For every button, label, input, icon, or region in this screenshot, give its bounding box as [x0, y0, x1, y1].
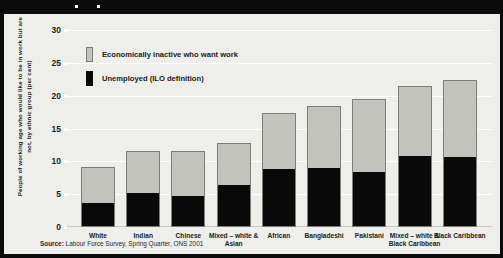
stacked-bar[interactable] [307, 106, 341, 227]
y-axis-tick-label: 30 [52, 25, 61, 35]
source-text: Labour Force Survey, Spring Quarter, ONS… [64, 240, 203, 247]
stacked-bar[interactable] [81, 167, 115, 227]
chart-plate: People of working age who would like to … [4, 14, 500, 254]
y-axis-tick-label: 10 [52, 156, 61, 166]
y-axis-tick-label: 20 [52, 91, 61, 101]
banner-dot-icon [97, 5, 100, 8]
legend-swatch-black-icon [86, 71, 93, 86]
bar-segment-unemployed [308, 168, 340, 226]
y-axis-tick-label: 25 [52, 58, 61, 68]
chart-legend: Economically inactive who want work Unem… [86, 47, 238, 95]
y-axis-tick-label: 5 [56, 189, 61, 199]
banner-dot-icon [75, 5, 78, 8]
stacked-bar[interactable] [217, 143, 251, 227]
y-axis-label: People of working age who would like to … [16, 14, 33, 200]
bar-segment-unemployed [263, 169, 295, 226]
chart-figure: People of working age who would like to … [0, 0, 503, 258]
bar-segment-unemployed [82, 203, 114, 226]
stacked-bar[interactable] [262, 113, 296, 227]
bar-segment-unemployed [399, 156, 431, 226]
legend-item-unemployed: Unemployed (ILO definition) [86, 71, 238, 86]
stacked-bar[interactable] [443, 80, 477, 227]
source-prefix: Source: [40, 240, 64, 247]
legend-label-unemployed: Unemployed (ILO definition) [102, 74, 204, 83]
legend-label-inactive: Economically inactive who want work [102, 50, 238, 59]
bar-segment-unemployed [218, 185, 250, 226]
stacked-bar[interactable] [352, 99, 386, 227]
x-axis-tick-label: Black Caribbean [430, 232, 490, 240]
y-axis-tick-label: 15 [52, 124, 61, 134]
title-banner [0, 0, 503, 14]
source-note: Source: Labour Force Survey, Spring Quar… [40, 240, 203, 247]
stacked-bar[interactable] [126, 151, 160, 227]
bar-segment-unemployed [353, 172, 385, 226]
bottom-border [0, 254, 503, 258]
bar-segment-unemployed [444, 157, 476, 226]
stacked-bar[interactable] [171, 151, 205, 227]
y-axis-tick-label: 0 [56, 222, 61, 232]
bar-segment-unemployed [172, 196, 204, 226]
bar-segment-unemployed [127, 193, 159, 226]
legend-item-inactive: Economically inactive who want work [86, 47, 238, 62]
legend-swatch-grey-icon [86, 47, 93, 62]
stacked-bar[interactable] [398, 86, 432, 227]
